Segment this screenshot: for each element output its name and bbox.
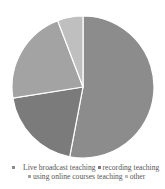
- legend-marker-live-broadcast: [12, 166, 15, 169]
- legend-row-1: Live broadcast teachingrecording teachin…: [10, 163, 165, 172]
- legend-label-online-courses: using online courses teaching: [33, 172, 123, 181]
- legend-row-2: using online courses teachingother: [26, 172, 165, 181]
- legend-label-live-broadcast: Live broadcast teaching: [23, 163, 96, 172]
- legend-marker-recording: [98, 166, 101, 169]
- legend-marker-online-courses: [28, 175, 31, 178]
- pie-chart: [0, 0, 165, 160]
- legend-label-recording: recording teaching: [103, 163, 160, 172]
- legend-label-other: other: [130, 172, 146, 181]
- legend-marker-other: [125, 175, 128, 178]
